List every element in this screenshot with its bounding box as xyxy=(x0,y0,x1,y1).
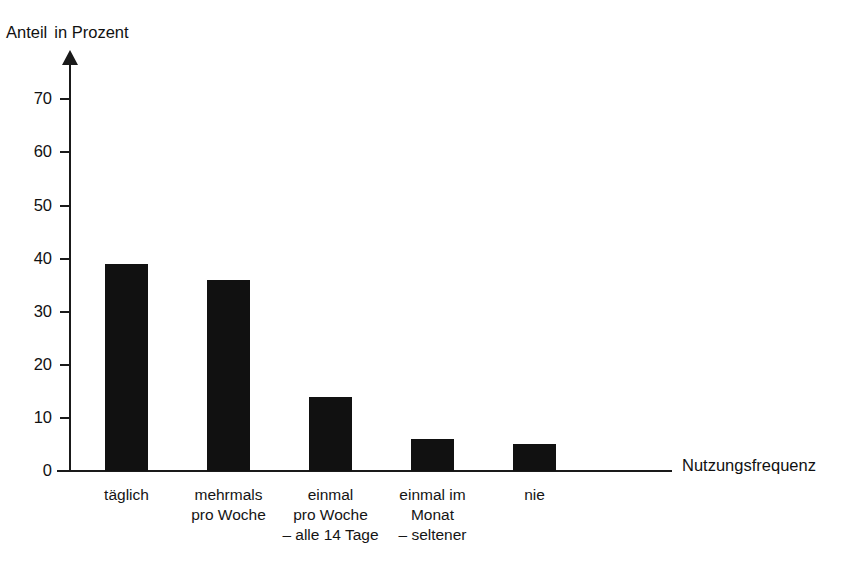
y-axis-tick xyxy=(60,470,69,472)
y-axis-title-part1: Anteil xyxy=(6,23,47,41)
y-axis-tick xyxy=(60,151,69,153)
bar xyxy=(513,444,556,471)
y-axis-tick-label: 70 xyxy=(0,90,52,107)
y-axis-tick xyxy=(60,205,69,207)
y-axis-tick-label: 20 xyxy=(0,356,52,373)
bar xyxy=(411,439,454,471)
y-axis-tick-label: 0 xyxy=(0,462,52,479)
y-axis-arrow-icon xyxy=(62,50,78,65)
chart-title xyxy=(160,0,680,4)
y-axis-tick-label: 60 xyxy=(0,143,52,160)
y-axis-title: Anteilin Prozent xyxy=(6,23,129,42)
y-axis-tick xyxy=(60,311,69,313)
y-axis-tick xyxy=(60,98,69,100)
y-axis-tick-label: 10 xyxy=(0,409,52,426)
bar xyxy=(105,264,148,471)
bar-chart: Anteilin Prozent Nutzungsfrequenz 010203… xyxy=(0,0,862,575)
y-axis-tick-label: 40 xyxy=(0,250,52,267)
bar xyxy=(309,397,352,471)
y-axis-tick-label: 50 xyxy=(0,197,52,214)
y-axis-title-part2: in Prozent xyxy=(54,23,128,41)
y-axis-tick xyxy=(60,258,69,260)
y-axis-tick xyxy=(60,364,69,366)
x-axis-title: Nutzungsfrequenz xyxy=(682,456,816,475)
bar xyxy=(207,280,250,471)
y-axis-tick-label: 30 xyxy=(0,303,52,320)
x-axis-line xyxy=(57,470,672,472)
y-axis-line xyxy=(69,62,71,472)
x-axis-category-label: nie xyxy=(470,485,600,505)
y-axis-tick xyxy=(60,417,69,419)
